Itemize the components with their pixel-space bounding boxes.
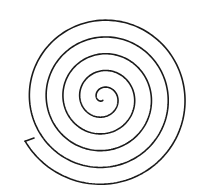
spiral-line (25, 20, 185, 184)
spiral-svg (0, 0, 202, 193)
spiral-figure (0, 0, 202, 193)
spiral-end-hook (25, 138, 34, 141)
